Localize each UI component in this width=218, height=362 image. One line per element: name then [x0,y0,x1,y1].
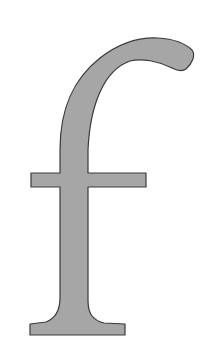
letter-f-icon [0,0,218,362]
letter-f-shape [30,38,194,335]
letter-f-glyph: f [0,0,218,362]
